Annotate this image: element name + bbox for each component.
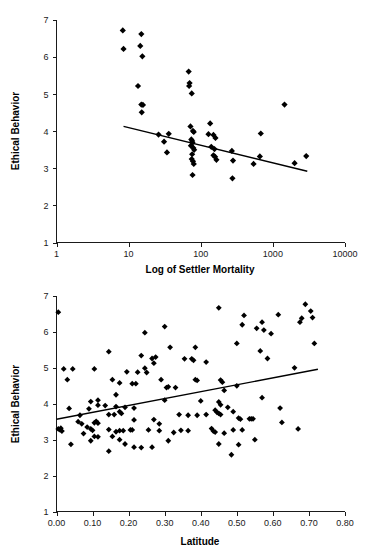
y-tick-label: 2 [43, 471, 48, 481]
data-point-marker [81, 431, 87, 437]
data-point-marker [156, 428, 162, 434]
y-tick-label: 3 [43, 435, 48, 445]
data-point-marker [167, 344, 173, 350]
data-point-marker [185, 412, 191, 418]
data-point-marker [139, 53, 145, 59]
data-point-marker [70, 366, 76, 372]
data-point-marker [151, 417, 157, 423]
x-axis-title-top: Log of Settler Mortality [146, 264, 255, 275]
data-point-marker [265, 356, 271, 362]
data-point-marker [106, 349, 112, 355]
data-point-marker [230, 157, 236, 163]
data-point-marker [95, 402, 101, 408]
data-point-marker [124, 369, 130, 375]
data-point-marker [138, 353, 144, 359]
data-point-marker [230, 427, 236, 433]
data-point-marker [146, 427, 152, 433]
data-point-marker [64, 377, 70, 383]
data-point-marker [109, 434, 115, 440]
data-point-marker [122, 441, 128, 447]
data-point-marker [138, 31, 144, 37]
data-point-marker [216, 305, 222, 311]
x-tick-label: 100 [193, 249, 208, 259]
y-tick-label: 2 [43, 201, 48, 211]
data-point-marker [250, 161, 256, 167]
data-point-marker [86, 406, 92, 412]
data-point-marker [261, 327, 267, 333]
data-point-marker [158, 377, 164, 383]
data-point-marker [156, 421, 162, 427]
x-ticks-bottom: 0.000.100.200.300.400.500.600.700.80 [48, 512, 354, 528]
data-point-marker [166, 131, 172, 137]
data-point-marker [186, 68, 192, 74]
x-tick-label: 10000 [332, 249, 357, 259]
y-tick-label: 4 [43, 399, 48, 409]
data-point-marker [275, 312, 281, 318]
data-point-marker [189, 90, 195, 96]
data-point-marker [120, 46, 126, 52]
data-point-marker [236, 442, 242, 448]
data-point-marker [120, 27, 126, 33]
data-point-marker [149, 444, 155, 450]
data-point-marker [277, 405, 283, 411]
data-point-marker [302, 301, 308, 307]
data-point-marker [225, 404, 231, 410]
x-ticks-top: 110100100010000 [54, 243, 358, 259]
data-point-marker [131, 417, 137, 423]
data-point-marker [229, 452, 235, 458]
data-point-marker [259, 395, 265, 401]
trend-line-bottom [57, 369, 318, 419]
x-tick-label: 0.10 [84, 518, 102, 528]
data-point-marker [135, 83, 141, 89]
data-point-marker [268, 331, 274, 337]
data-point-marker [311, 341, 317, 347]
x-tick-label: 10 [124, 249, 134, 259]
data-point-marker [291, 160, 297, 166]
data-point-marker [164, 149, 170, 155]
data-point-marker [310, 315, 316, 321]
data-point-marker [135, 369, 141, 375]
y-tick-label: 6 [43, 327, 48, 337]
data-point-marker [133, 381, 139, 387]
data-point-marker [95, 397, 101, 403]
data-points-top [120, 27, 310, 181]
y-ticks-top: 1234567 [43, 15, 56, 248]
data-point-marker [88, 399, 94, 405]
data-point-marker [173, 385, 179, 391]
data-point-marker [198, 398, 204, 404]
data-point-marker [221, 388, 227, 394]
data-point-marker [207, 120, 213, 126]
data-point-marker [239, 427, 245, 433]
data-point-marker [106, 412, 112, 418]
data-point-marker [117, 437, 123, 443]
data-point-marker [234, 341, 240, 347]
data-point-marker [189, 172, 195, 178]
x-tick-label: 0.60 [264, 518, 282, 528]
data-point-marker [68, 441, 74, 447]
data-point-marker [161, 139, 167, 145]
data-point-marker [176, 412, 182, 418]
x-tick-label: 0.30 [156, 518, 174, 528]
data-point-marker [165, 438, 171, 444]
data-point-marker [66, 406, 72, 412]
x-tick-label: 1 [54, 249, 59, 259]
y-axis-title-top: Ethical Behavior [10, 92, 21, 170]
data-point-marker [185, 428, 191, 434]
scatter-chart-latitude: 1234567 0.000.100.200.300.400.500.600.70… [0, 280, 368, 559]
chart-panel-settler-mortality: 1234567 110100100010000 Ethical Behavior… [0, 0, 368, 280]
data-point-marker [91, 366, 97, 372]
data-point-marker [138, 445, 144, 451]
data-point-marker [106, 427, 112, 433]
y-tick-label: 7 [43, 15, 48, 25]
x-tick-label: 0.80 [336, 518, 354, 528]
data-point-marker [259, 319, 265, 325]
data-point-marker [171, 430, 177, 436]
data-point-marker [131, 444, 137, 450]
data-point-marker [229, 175, 235, 181]
data-point-marker [120, 428, 126, 434]
y-tick-label: 4 [43, 127, 48, 137]
data-point-marker [257, 348, 263, 354]
axes-top [57, 20, 346, 243]
data-point-marker [295, 426, 301, 432]
data-point-marker [216, 441, 222, 447]
